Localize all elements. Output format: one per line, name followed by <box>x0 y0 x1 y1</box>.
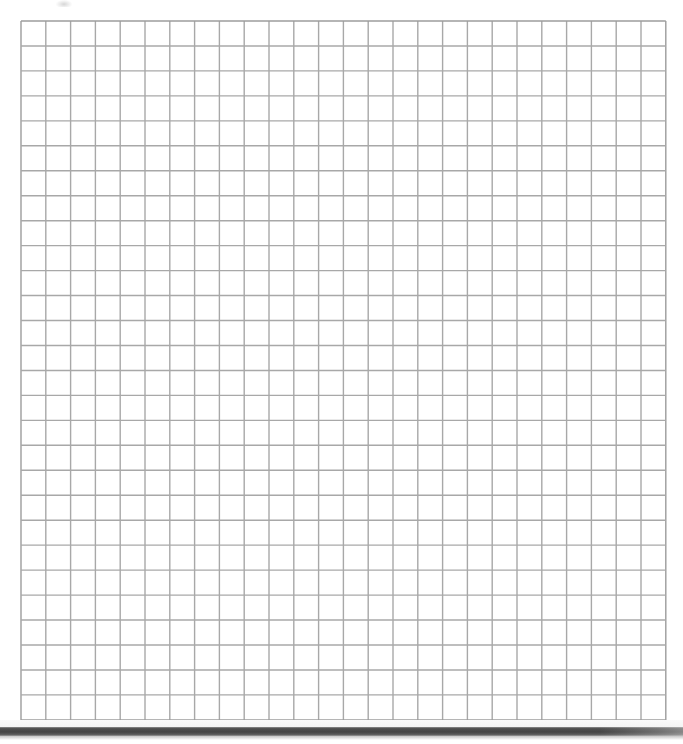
page-canvas <box>0 0 683 744</box>
scan-edge-fade <box>0 736 683 740</box>
scan-smudge-artifact-icon <box>56 0 72 7</box>
graph-paper-grid <box>20 20 667 721</box>
scan-edge-shadow-bar <box>0 727 683 736</box>
grid-svg <box>20 20 667 721</box>
paper-lower-margin <box>0 720 683 727</box>
